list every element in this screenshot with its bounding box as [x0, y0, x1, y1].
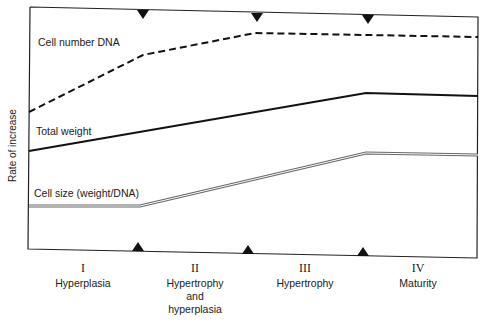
phase-1: I Hyperplasia — [28, 262, 138, 290]
y-axis-label: Rate of increase — [7, 96, 18, 196]
phase-marker-top-2 — [251, 13, 263, 22]
phase-3-numeral: III — [250, 262, 360, 275]
series-total-weight — [29, 93, 478, 151]
phase-2: II Hypertrophy and hyperplasia — [140, 262, 250, 316]
phase-3-name: Hypertrophy — [250, 277, 360, 290]
phase-marker-top-1 — [137, 10, 149, 19]
phase-1-name: Hyperplasia — [28, 277, 138, 290]
phase-2-name-line3: hyperplasia — [140, 303, 250, 316]
phase-marker-bottom-3 — [357, 247, 369, 256]
label-cell-size: Cell size (weight/DNA) — [34, 187, 139, 199]
phase-marker-top-3 — [362, 15, 374, 24]
phase-2-numeral: II — [140, 262, 250, 275]
label-cell-number-dna: Cell number DNA — [38, 36, 120, 48]
phase-marker-bottom-2 — [242, 245, 254, 254]
phase-marker-bottom-1 — [132, 242, 144, 251]
phase-2-name-line1: Hypertrophy — [140, 277, 250, 290]
phase-4-numeral: IV — [363, 262, 473, 275]
label-total-weight: Total weight — [36, 125, 91, 137]
phase-3: III Hypertrophy — [250, 262, 360, 290]
phase-4: IV Maturity — [363, 262, 473, 290]
phase-4-name: Maturity — [363, 277, 473, 290]
phase-2-name-line2: and — [140, 290, 250, 303]
phase-1-numeral: I — [28, 262, 138, 275]
